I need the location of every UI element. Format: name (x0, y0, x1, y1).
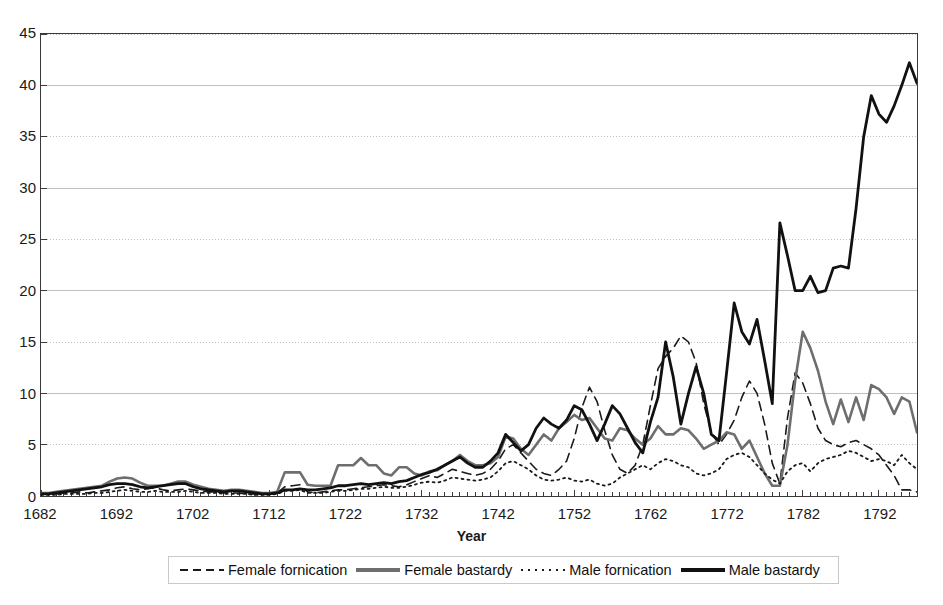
legend-swatch-icon (179, 563, 225, 577)
x-tick-label: 1702 (176, 505, 209, 522)
series-line-female-fornication (41, 336, 917, 494)
y-tick-label: 40 (2, 77, 36, 92)
y-tick-label: 45 (2, 25, 36, 40)
legend-item[interactable]: Male fornication (520, 557, 679, 583)
legend-swatch-icon (520, 563, 566, 577)
x-tick-label: 1762 (634, 505, 667, 522)
y-tick-label: 5 (2, 437, 36, 452)
chart-legend: Female fornicationFemale bastardyMale fo… (168, 556, 839, 584)
legend-label: Female fornication (228, 562, 347, 578)
y-tick-label: 10 (2, 386, 36, 401)
x-tick-label: 1682 (23, 505, 56, 522)
legend-swatch-icon (680, 563, 726, 577)
y-tick-label: 15 (2, 334, 36, 349)
plot-area (40, 33, 918, 497)
legend-item[interactable]: Female fornication (179, 557, 355, 583)
x-tick-label: 1792 (863, 505, 896, 522)
legend-item[interactable]: Female bastardy (355, 557, 520, 583)
x-tick-label: 1772 (710, 505, 743, 522)
legend-swatch-icon (355, 563, 401, 577)
x-tick-label: 1722 (329, 505, 362, 522)
legend-label: Male bastardy (729, 562, 820, 578)
x-tick-label: 1782 (787, 505, 820, 522)
legend-label: Male fornication (569, 562, 671, 578)
legend-label: Female bastardy (404, 562, 512, 578)
x-tick-label: 1742 (481, 505, 514, 522)
y-tick-label: 30 (2, 180, 36, 195)
y-tick-label: 35 (2, 128, 36, 143)
chart-container: 051015202530354045 168216921702171217221… (0, 0, 943, 605)
x-tick-label: 1712 (252, 505, 285, 522)
x-axis-title: Year (0, 528, 943, 544)
y-tick-label: 20 (2, 283, 36, 298)
x-axis: 1682169217021712172217321742175217621772… (0, 505, 943, 527)
x-tick-label: 1752 (558, 505, 591, 522)
y-tick-label: 0 (2, 489, 36, 504)
x-tick-label: 1732 (405, 505, 438, 522)
plot-svg (41, 34, 917, 496)
y-tick-label: 25 (2, 231, 36, 246)
x-tick-label: 1692 (100, 505, 133, 522)
series-line-female-bastardy (41, 332, 917, 493)
legend-item[interactable]: Male bastardy (680, 557, 828, 583)
